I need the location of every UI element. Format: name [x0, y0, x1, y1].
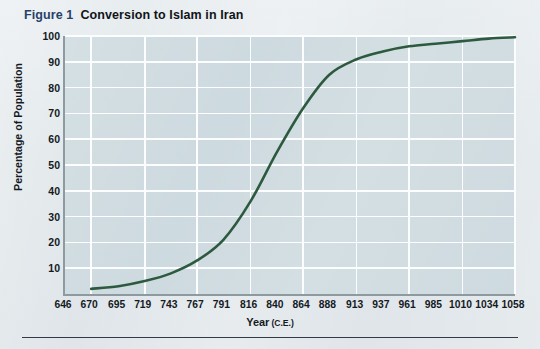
- y-axis-ticks: 102030405060708090100: [28, 36, 60, 294]
- x-tick-label: 743: [160, 300, 177, 310]
- x-tick-label: 695: [108, 300, 125, 310]
- x-tick-label: 864: [293, 300, 310, 310]
- x-tick-label: 1010: [449, 300, 472, 310]
- y-tick-label: 90: [34, 57, 60, 68]
- y-tick-label: 50: [34, 160, 60, 171]
- y-tick-label: 20: [34, 237, 60, 248]
- x-tick-label: 1034: [475, 300, 498, 310]
- x-tick-label: 816: [240, 300, 257, 310]
- conversion-curve-line: [91, 37, 515, 289]
- y-tick-label: 40: [34, 186, 60, 197]
- x-tick-label: 937: [372, 300, 389, 310]
- x-tick-label: 767: [187, 300, 204, 310]
- x-tick-label: 985: [425, 300, 442, 310]
- y-tick-label: 70: [34, 108, 60, 119]
- y-axis-label: Percentage of Population: [12, 47, 24, 207]
- plot-area: [63, 36, 515, 296]
- y-tick-label: 100: [34, 31, 60, 42]
- y-tick-label: 80: [34, 82, 60, 93]
- x-axis-label: Year(C.E.): [0, 316, 540, 328]
- x-tick-label: 646: [54, 300, 71, 310]
- footer-rule: [22, 337, 518, 338]
- x-axis-label-text: Year: [246, 316, 269, 328]
- x-tick-label: 840: [266, 300, 283, 310]
- x-tick-label: 888: [319, 300, 336, 310]
- x-tick-label: 1058: [502, 300, 525, 310]
- y-tick-label: 30: [34, 211, 60, 222]
- x-tick-label: 670: [81, 300, 98, 310]
- x-tick-label: 961: [398, 300, 415, 310]
- conversion-curve-svg: [65, 36, 515, 294]
- x-axis-ticks: 6466706957197437677918168408648889139379…: [63, 300, 513, 314]
- x-axis-label-unit: (C.E.): [271, 318, 293, 328]
- x-tick-label: 791: [213, 300, 230, 310]
- x-tick-label: 719: [134, 300, 151, 310]
- x-tick-label: 913: [346, 300, 363, 310]
- y-tick-label: 10: [34, 263, 60, 274]
- chart-container: 102030405060708090100 646670695719743767…: [0, 0, 540, 349]
- y-tick-label: 60: [34, 134, 60, 145]
